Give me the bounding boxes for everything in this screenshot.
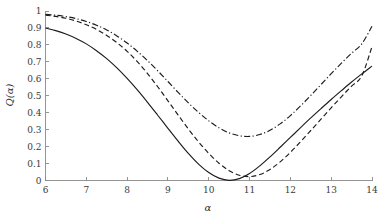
y-tick-label: 0	[36, 176, 42, 186]
x-tick-label: 13	[325, 185, 337, 195]
y-tick-label: 0.9	[27, 23, 42, 33]
data-curves	[46, 14, 373, 180]
chart-figure: Q(α) α 00.10.20.30.40.50.60.70.80.91 678…	[0, 0, 387, 216]
x-tick-label: 9	[165, 185, 171, 195]
curve-solid	[46, 28, 373, 180]
y-tick-label: 0.7	[27, 57, 42, 67]
x-tick-label: 7	[83, 185, 89, 195]
y-tick-label: 0.8	[27, 40, 42, 50]
y-tick-label: 0.2	[27, 142, 41, 152]
y-tick-label: 0.1	[27, 159, 41, 169]
x-tick-label: 6	[43, 185, 49, 195]
x-tick-label: 8	[124, 185, 130, 195]
x-tick-label: 11	[244, 185, 255, 195]
x-tick-label: 10	[203, 185, 215, 195]
plot-canvas: Q(α) α 00.10.20.30.40.50.60.70.80.91 678…	[0, 0, 387, 216]
curve-dashed	[46, 15, 373, 176]
x-tick-label: 14	[366, 185, 378, 195]
x-axis-ticks: 67891011121314	[43, 177, 378, 195]
curve-dash-dot	[46, 14, 373, 136]
y-tick-label: 0.5	[27, 91, 42, 101]
y-axis-label: Q(α)	[4, 84, 15, 107]
x-axis-label: α	[205, 202, 212, 213]
y-tick-label: 0.6	[27, 74, 42, 84]
x-tick-label: 12	[285, 185, 296, 195]
y-tick-label: 1	[36, 6, 42, 16]
y-tick-label: 0.4	[27, 108, 42, 118]
y-tick-label: 0.3	[27, 125, 42, 135]
